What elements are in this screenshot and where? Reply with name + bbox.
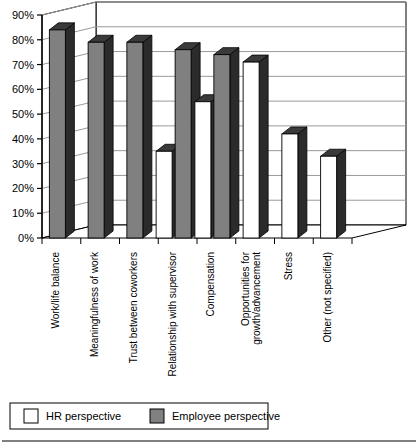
bar-front xyxy=(243,62,259,238)
x-category-label-6: Stress xyxy=(283,252,294,280)
y-tick-label: 70% xyxy=(12,59,34,71)
x-category-label-line: Other (not specified) xyxy=(322,252,333,343)
x-category-label-0: Work/life balance xyxy=(50,252,61,329)
bar-front xyxy=(195,102,211,238)
bar-employee-1 xyxy=(88,35,113,238)
bar-front xyxy=(321,156,337,238)
bar-front xyxy=(49,30,65,238)
bar-employee-0 xyxy=(49,23,74,238)
x-category-label-line: Stress xyxy=(283,252,294,280)
bar-side xyxy=(337,149,346,238)
bar-side xyxy=(230,48,239,238)
y-tick-label: 40% xyxy=(12,133,34,145)
bar-side xyxy=(259,55,268,238)
bar-employee-2 xyxy=(127,35,152,238)
x-category-label-line: Relationship with supervisor xyxy=(167,251,178,376)
legend-swatch-1[interactable] xyxy=(150,409,164,423)
y-tick-label: 20% xyxy=(12,182,34,194)
x-category-label-4: Compensation xyxy=(205,252,216,316)
bar-side xyxy=(65,23,74,238)
y-tick-label: 0% xyxy=(18,232,34,244)
x-category-label-line: Work/life balance xyxy=(50,252,61,329)
y-tick-label: 50% xyxy=(12,108,34,120)
x-category-label-3: Relationship with supervisor xyxy=(167,251,178,376)
legend-swatch-0[interactable] xyxy=(24,409,38,423)
y-tick-label: 10% xyxy=(12,207,34,219)
bar-hr-6 xyxy=(282,127,307,238)
bar-front xyxy=(127,42,143,238)
bar-front xyxy=(175,50,191,238)
bar-hr-5 xyxy=(243,55,268,238)
x-category-label-1: Meaningfulness of work xyxy=(89,251,100,357)
y-tick-label: 30% xyxy=(12,158,34,170)
grouped-bar-chart-3d: 0%10%20%30%40%50%60%70%80%90% Work/life … xyxy=(0,0,418,448)
y-tick-label: 80% xyxy=(12,34,34,46)
x-category-label-line: Trust between coworkers xyxy=(128,252,139,363)
bar-side xyxy=(143,35,152,238)
bar-front xyxy=(214,55,230,238)
x-category-label-line: growth/advancement xyxy=(251,252,262,345)
bar-hr-7 xyxy=(321,149,346,238)
bar-employee-4 xyxy=(214,48,239,238)
x-category-label-line: Opportunities for xyxy=(240,251,251,326)
y-tick-label: 60% xyxy=(12,83,34,95)
x-category-label-line: Compensation xyxy=(205,252,216,316)
chart-legend: HR perspectiveEmployee perspective xyxy=(10,403,280,429)
bar-side xyxy=(298,127,307,238)
bar-side xyxy=(104,35,113,238)
plot-area: 0%10%20%30%40%50%60%70%80%90% Work/life … xyxy=(0,0,418,448)
x-category-label-2: Trust between coworkers xyxy=(128,252,139,363)
x-category-label-line: Meaningfulness of work xyxy=(89,251,100,357)
legend-label-0: HR perspective xyxy=(46,410,121,422)
chart-container: 0%10%20%30%40%50%60%70%80%90% Work/life … xyxy=(0,0,418,448)
bar-front xyxy=(282,134,298,238)
y-tick-label: 90% xyxy=(12,9,34,21)
bar-front xyxy=(88,42,104,238)
bar-front xyxy=(156,151,172,238)
legend-label-1: Employee perspective xyxy=(172,410,280,422)
x-category-label-7: Other (not specified) xyxy=(322,252,333,343)
